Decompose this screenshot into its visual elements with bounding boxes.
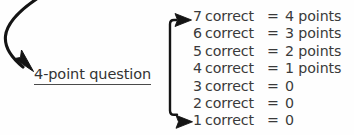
diagram-canvas: 4-point question 7 correct = 4 points 6 … <box>0 0 354 135</box>
outcome-score: 0 <box>285 78 294 95</box>
outcome-correct-label: correct <box>205 78 267 95</box>
outcome-equals-sign: = <box>267 43 285 60</box>
outcome-score: 4 points <box>285 8 341 25</box>
outcome-correct-label: correct <box>205 43 267 60</box>
outcome-list: 7 correct = 4 points 6 correct = 3 point… <box>193 8 354 130</box>
list-item: 1 correct = 0 <box>193 112 354 129</box>
outcome-correct-label: correct <box>205 25 267 42</box>
list-item: 7 correct = 4 points <box>193 8 354 25</box>
outcome-count: 6 <box>193 25 205 42</box>
outcome-equals-sign: = <box>267 60 285 77</box>
curved-arrow-down-right-icon <box>5 0 38 72</box>
outcome-score: 0 <box>285 95 294 112</box>
arrow-right-icon <box>175 14 192 27</box>
list-item: 4 correct = 1 points <box>193 60 354 77</box>
outcome-count: 5 <box>193 43 205 60</box>
outcome-score: 0 <box>285 112 294 129</box>
outcome-count: 3 <box>193 78 205 95</box>
outcome-score: 2 points <box>285 43 341 60</box>
list-item: 3 correct = 0 <box>193 78 354 95</box>
arrow-right-icon <box>176 115 193 128</box>
list-item: 2 correct = 0 <box>193 95 354 112</box>
outcome-score: 3 points <box>285 25 341 42</box>
outcome-correct-label: correct <box>205 112 267 129</box>
outcome-equals-sign: = <box>267 95 285 112</box>
outcome-count: 2 <box>193 95 205 112</box>
outcome-correct-label: correct <box>205 95 267 112</box>
page-title: 4-point question <box>34 66 151 85</box>
list-item: 6 correct = 3 points <box>193 25 354 42</box>
outcome-count: 4 <box>193 60 205 77</box>
outcome-count: 1 <box>193 112 205 129</box>
outcome-equals-sign: = <box>267 78 285 95</box>
outcome-equals-sign: = <box>267 8 285 25</box>
outcome-count: 7 <box>193 8 205 25</box>
outcome-correct-label: correct <box>205 8 267 25</box>
outcome-score: 1 points <box>285 60 341 77</box>
list-item: 5 correct = 2 points <box>193 43 354 60</box>
outcome-equals-sign: = <box>267 25 285 42</box>
brace-bracket-with-arrows-icon <box>170 14 193 129</box>
outcome-equals-sign: = <box>267 112 285 129</box>
outcome-correct-label: correct <box>205 60 267 77</box>
